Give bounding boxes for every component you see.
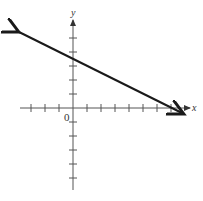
coordinate-plane: y x 0 (0, 0, 203, 201)
y-axis-label: y (70, 7, 76, 18)
origin-label: 0 (64, 111, 70, 123)
x-axis-label: x (191, 102, 197, 113)
graph-line (17, 31, 182, 113)
